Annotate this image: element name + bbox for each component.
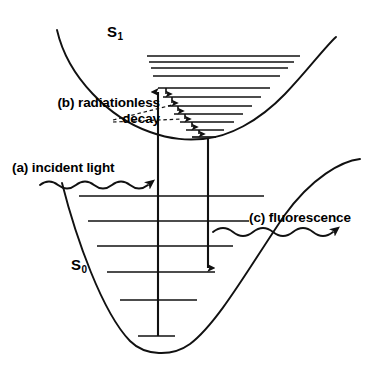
annotation-radiationless-decay-line1: (b) radiationless (57, 95, 160, 110)
energy-diagram-figure: S1 S0 (b) radiationlessdecay (a) inciden… (0, 0, 375, 369)
annotation-radiationless-decay-line2: decay (122, 111, 160, 126)
annotation-fluorescence: (c) fluorescence (249, 210, 351, 226)
state-label-s0-subscript: 0 (82, 264, 88, 275)
ground-state-vibrational-levels (79, 196, 264, 336)
radiationless-decay-cascade (166, 88, 199, 134)
annotation-radiationless-decay: (b) radiationlessdecay (34, 95, 160, 127)
diagram-canvas (0, 0, 375, 369)
state-label-s0: S0 (71, 257, 87, 272)
fluorescence-wavy-arrow (213, 228, 333, 236)
incident-light-wavy-arrow (40, 182, 148, 189)
excited-state-vibrational-levels (147, 56, 300, 137)
annotation-incident-light: (a) incident light (12, 160, 114, 176)
state-label-s1-subscript: 1 (118, 31, 124, 42)
state-label-s1: S1 (107, 24, 123, 39)
